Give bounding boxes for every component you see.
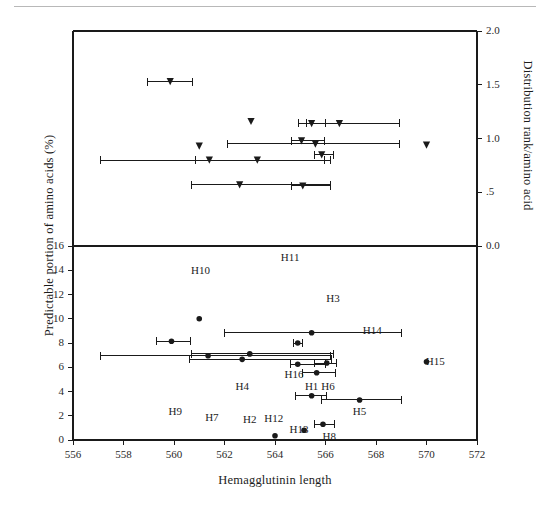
y-tick-label-left-12: 12 <box>53 288 64 300</box>
data-point-upper-H11 <box>195 156 330 164</box>
figure-canvas: Predictable portion of amino acids (%) D… <box>0 0 550 506</box>
point-label-H4: H4 <box>235 380 248 392</box>
circle-marker-H4 <box>247 351 253 357</box>
y-tick-label-left-6: 6 <box>59 360 65 372</box>
data-point-upper-H10 <box>247 118 254 125</box>
x-tick-label-568: 568 <box>368 448 385 460</box>
data-point-upper-H3 <box>307 119 400 127</box>
x-tick-label-558: 558 <box>115 448 132 460</box>
point-label-H15: H15 <box>426 355 445 367</box>
point-label-H13: H13 <box>290 423 309 435</box>
data-point-lower-H1 <box>303 369 336 377</box>
point-label-H10: H10 <box>191 264 210 276</box>
y-tick-label-right-1.5: 1.5 <box>486 78 500 90</box>
circle-marker-H10 <box>196 316 202 322</box>
point-label-H16: H16 <box>284 368 303 380</box>
point-label-H12: H12 <box>264 412 283 424</box>
circle-marker-H3 <box>309 330 315 336</box>
y-tick-label-right-.5: .5 <box>486 185 494 197</box>
point-label-H3: H3 <box>326 292 339 304</box>
y-tick-label-right-1.0: 1.0 <box>486 132 500 144</box>
point-label-H14: H14 <box>363 324 382 336</box>
y-tick-label-left-2: 2 <box>59 409 65 421</box>
triangle-marker-H15 <box>423 142 430 149</box>
point-label-H11: H11 <box>281 251 300 263</box>
y-tick-label-left-8: 8 <box>59 336 65 348</box>
circle-marker-H16 <box>295 361 301 367</box>
y-tick-label-left-14: 14 <box>53 263 64 275</box>
y-tick-label-left-10: 10 <box>53 312 64 324</box>
circle-marker-H6 <box>324 360 330 366</box>
point-label-H7: H7 <box>205 411 218 423</box>
data-point-upper-H2 <box>192 181 331 189</box>
circle-marker-H2 <box>239 357 245 363</box>
axis-ticks <box>68 31 482 445</box>
point-label-H8: H8 <box>323 430 336 442</box>
data-point-lower-H16 <box>290 360 325 368</box>
x-tick-label-566: 566 <box>317 448 334 460</box>
y-axis-title-right: Distribution rank/amino acid <box>520 11 535 261</box>
point-label-H9: H9 <box>169 405 182 417</box>
data-point-upper-H7 <box>196 143 203 150</box>
data-point-upper-H9 <box>147 78 192 86</box>
x-tick-label-560: 560 <box>166 448 183 460</box>
data-point-lower-H4 <box>192 350 333 358</box>
data-point-upper-H5 <box>291 182 330 190</box>
circle-marker-H9 <box>169 338 175 344</box>
x-tick-label-556: 556 <box>65 448 82 460</box>
data-point-lower-H14 <box>294 339 303 347</box>
data-point-lower-H8 <box>314 420 334 428</box>
x-axis-title: Hemagglutinin length <box>73 473 477 488</box>
data-point-lower-H5 <box>322 396 402 404</box>
circle-marker-H14 <box>295 340 301 346</box>
point-label-H2: H2 <box>243 413 256 425</box>
y-tick-label-left-16: 16 <box>53 239 64 251</box>
point-label-H1: H1 <box>305 380 318 392</box>
y-tick-label-left-0: 0 <box>59 433 65 445</box>
page-header-rule <box>14 6 536 7</box>
triangle-marker-H7 <box>196 143 203 150</box>
circle-marker-H1 <box>314 370 320 376</box>
data-point-lower-H10 <box>196 316 202 322</box>
circle-marker-H5 <box>357 397 363 403</box>
x-tick-label-562: 562 <box>216 448 233 460</box>
circle-marker-H11 <box>309 393 315 399</box>
data-point-lower-H12 <box>272 433 278 439</box>
data-point-lower-H7 <box>101 352 331 360</box>
upper-panel-series <box>101 78 430 190</box>
x-tick-label-564: 564 <box>267 448 284 460</box>
scatter-plot-svg <box>0 0 550 506</box>
y-tick-label-right-2.0: 2.0 <box>486 24 500 36</box>
y-tick-label-left-4: 4 <box>59 385 65 397</box>
circle-marker-H8 <box>320 421 326 427</box>
data-point-lower-H9 <box>156 337 190 345</box>
y-tick-label-right-0.0: 0.0 <box>486 239 500 251</box>
data-point-upper-H6 <box>227 140 400 148</box>
triangle-marker-H10 <box>247 118 254 125</box>
x-tick-label-570: 570 <box>418 448 435 460</box>
x-tick-label-572: 572 <box>469 448 486 460</box>
data-point-upper-H15 <box>423 142 430 149</box>
point-label-H5: H5 <box>353 405 366 417</box>
plot-frame <box>73 31 477 440</box>
point-label-H6: H6 <box>321 380 334 392</box>
circle-marker-H12 <box>272 433 278 439</box>
